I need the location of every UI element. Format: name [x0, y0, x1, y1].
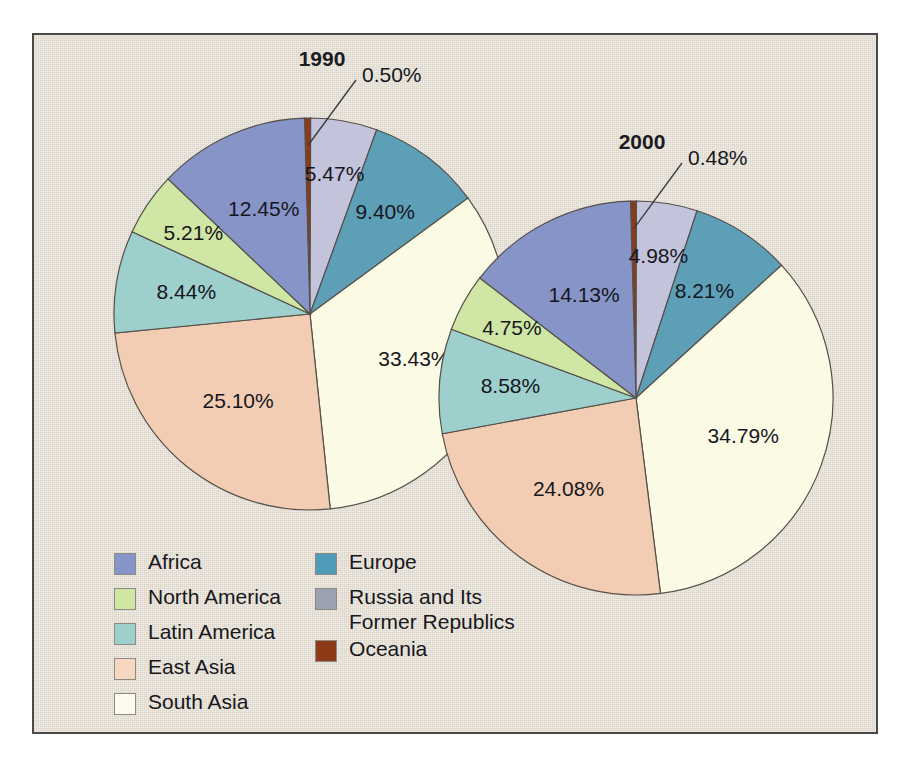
pie-slice-label: 0.50% — [362, 63, 422, 86]
legend-swatch — [114, 658, 136, 680]
legend-label: Africa — [148, 549, 202, 574]
legend-label: Europe — [349, 549, 417, 574]
legend-label: East Asia — [148, 654, 236, 679]
pie-slice — [115, 314, 330, 510]
legend-item[interactable]: Africa — [114, 549, 281, 584]
legend-column-left: AfricaNorth AmericaLatin AmericaEast Asi… — [114, 549, 281, 724]
pie-slice-label: 4.75% — [482, 316, 542, 339]
legend-swatch — [315, 553, 337, 575]
pie-slice-label: 0.48% — [688, 146, 748, 169]
legend-swatch — [315, 640, 337, 662]
pie-slice-label: 9.40% — [355, 200, 415, 223]
pie-slice-label: 5.21% — [164, 221, 224, 244]
chart-frame: 1990 0.50%5.47%9.40%33.43%25.10%8.44%5.2… — [32, 33, 878, 734]
pie-slice-label: 12.45% — [228, 197, 299, 220]
legend-swatch — [114, 553, 136, 575]
pie-title-1990: 1990 — [299, 47, 346, 70]
legend-label: Latin America — [148, 619, 275, 644]
legend-label: North America — [148, 584, 281, 609]
legend-swatch — [114, 588, 136, 610]
legend-label: South Asia — [148, 689, 248, 714]
pie-slice-label: 4.98% — [629, 244, 689, 267]
legend-swatch — [114, 693, 136, 715]
pie-slice-label: 25.10% — [202, 389, 273, 412]
pie-slice-label: 33.43% — [378, 347, 449, 370]
pie-2000: 2000 0.48%4.98%8.21%34.79%24.08%8.58%4.7… — [439, 130, 833, 595]
pie-slice-label: 34.79% — [708, 424, 779, 447]
pie-slice-label: 14.13% — [548, 283, 619, 306]
pie-slice-label: 5.47% — [305, 162, 365, 185]
legend-item[interactable]: Latin America — [114, 619, 281, 654]
legend-column-right: EuropeRussia and Its Former RepublicsOce… — [315, 549, 515, 671]
legend-swatch — [315, 588, 337, 610]
legend-item[interactable]: East Asia — [114, 654, 281, 689]
legend: AfricaNorth AmericaLatin AmericaEast Asi… — [114, 549, 515, 724]
pie-slice-label: 8.44% — [157, 280, 217, 303]
legend-swatch — [114, 623, 136, 645]
legend-item[interactable]: Europe — [315, 549, 515, 584]
legend-item[interactable]: Russia and Its Former Republics — [315, 584, 515, 636]
legend-item[interactable]: North America — [114, 584, 281, 619]
pie-slice-label: 8.21% — [675, 279, 735, 302]
legend-item[interactable]: South Asia — [114, 689, 281, 724]
pie-slice-label: 8.58% — [481, 374, 541, 397]
pie-title-2000: 2000 — [619, 130, 666, 153]
legend-label: Oceania — [349, 636, 427, 661]
legend-label: Russia and Its Former Republics — [349, 584, 515, 634]
legend-item[interactable]: Oceania — [315, 636, 515, 671]
pie-slice-label: 24.08% — [533, 477, 604, 500]
chart-page: 1990 0.50%5.47%9.40%33.43%25.10%8.44%5.2… — [0, 0, 909, 769]
